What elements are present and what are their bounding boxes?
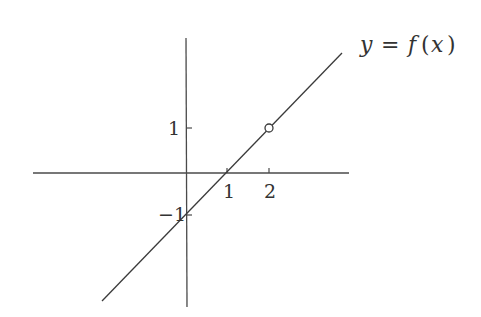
function-label: y = f ( x ): [359, 32, 456, 57]
label-lparen: (: [421, 32, 430, 57]
label-equals: =: [381, 32, 399, 57]
label-y: y: [359, 32, 373, 57]
label-x: x: [431, 32, 444, 57]
y-tick-label-minus-1: −1: [158, 203, 186, 225]
label-f: f: [406, 32, 420, 57]
y-axis: [186, 38, 187, 307]
function-graph: 1 2 1 −1 y = f ( x ): [0, 0, 481, 317]
label-rparen: ): [447, 32, 456, 57]
function-line: [102, 53, 342, 301]
x-tick-label-1: 1: [223, 180, 235, 202]
open-point-hole: [265, 124, 273, 132]
y-tick-label-1: 1: [168, 117, 180, 139]
x-tick-label-2: 2: [264, 180, 276, 202]
